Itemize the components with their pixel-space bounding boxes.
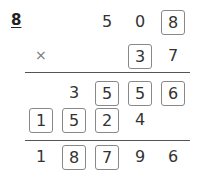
digit-partial-product-2: 4 <box>128 108 152 132</box>
digit-box-multiplicand[interactable]: 8 <box>161 10 185 35</box>
digit-box-final-product[interactable]: 7 <box>95 145 119 170</box>
digit-multiplier: 7 <box>161 44 185 68</box>
digit-final-product: 1 <box>29 145 53 169</box>
digit-final-product: 9 <box>128 145 152 169</box>
digit-box-partial-product-1[interactable]: 6 <box>161 81 185 106</box>
digit-partial-product-1: 3 <box>62 81 86 105</box>
digit-box-partial-product-2[interactable]: 2 <box>95 108 119 133</box>
multiply-sign: × <box>35 47 47 63</box>
digit-multiplicand: 0 <box>128 10 152 34</box>
digit-box-partial-product-2[interactable]: 5 <box>62 108 86 133</box>
digit-final-product: 6 <box>161 145 185 169</box>
rule-line-1 <box>25 72 190 73</box>
rule-line-2 <box>25 140 190 141</box>
digit-box-partial-product-1[interactable]: 5 <box>128 81 152 106</box>
digit-box-final-product[interactable]: 8 <box>62 145 86 170</box>
digit-multiplicand: 5 <box>95 10 119 34</box>
digit-box-multiplier[interactable]: 3 <box>128 44 152 69</box>
digit-box-partial-product-1[interactable]: 5 <box>95 81 119 106</box>
digit-box-partial-product-2[interactable]: 1 <box>29 108 53 133</box>
problem-number: 8 <box>11 11 21 29</box>
